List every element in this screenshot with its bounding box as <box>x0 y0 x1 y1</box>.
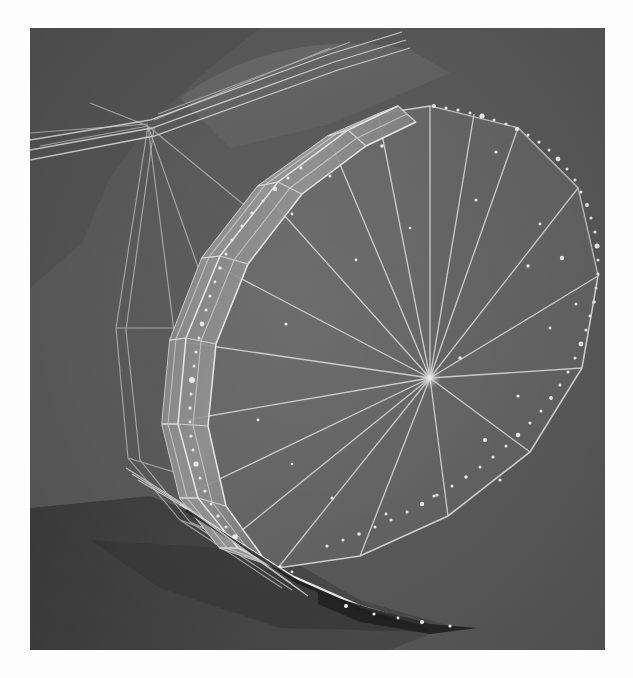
wireframe-scene <box>30 28 605 650</box>
render-canvas <box>30 28 605 650</box>
scan-softening-wash <box>30 28 605 650</box>
image-viewport: 3D wireframe rendering of a cylindrical … <box>0 0 633 678</box>
